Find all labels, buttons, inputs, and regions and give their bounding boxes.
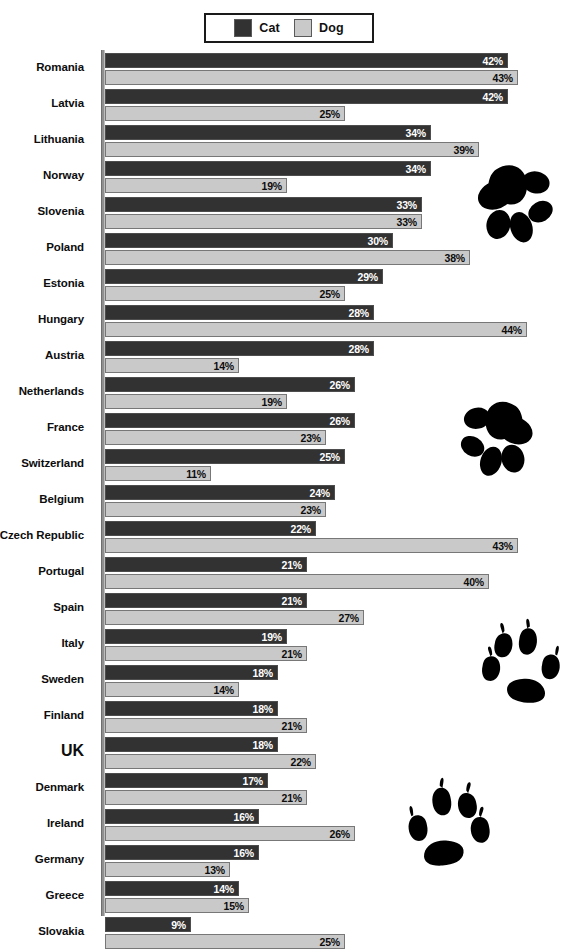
bar-cat: 16% (105, 809, 259, 824)
legend-label-cat: Cat (259, 21, 280, 35)
bar-value-label: 34% (406, 127, 430, 139)
bar-value-label: 43% (493, 72, 517, 84)
bar-dog: 39% (105, 142, 479, 157)
bar-value-label: 40% (464, 576, 488, 588)
category-label: Poland (0, 241, 84, 253)
bar-value-label: 26% (330, 415, 354, 427)
bar-dog: 23% (105, 502, 326, 517)
bar-cat: 18% (105, 665, 278, 680)
bar-dog: 43% (105, 538, 518, 553)
bar-value-label: 26% (330, 828, 354, 840)
bar-value-label: 19% (262, 631, 286, 643)
bar-value-label: 21% (282, 559, 306, 571)
bar-dog: 27% (105, 610, 364, 625)
bar-cat: 22% (105, 521, 316, 536)
bar-value-label: 42% (483, 91, 507, 103)
bar-dog: 25% (105, 934, 345, 949)
bar-dog: 21% (105, 718, 307, 733)
bar-row: Romania42%43% (0, 52, 578, 88)
bar-dog: 23% (105, 430, 326, 445)
category-label: Slovenia (0, 205, 84, 217)
cat-paw-print (466, 155, 562, 251)
bar-value-label: 23% (301, 504, 325, 516)
legend-swatch-cat (234, 19, 252, 37)
bar-cat: 34% (105, 125, 431, 140)
bar-row: Latvia42%25% (0, 88, 578, 124)
bar-cat: 34% (105, 161, 431, 176)
category-label: Lithuania (0, 133, 84, 145)
category-label: Estonia (0, 277, 84, 289)
bar-value-label: 11% (186, 468, 210, 480)
category-label: Switzerland (0, 457, 84, 469)
bar-value-label: 14% (214, 684, 238, 696)
bar-value-label: 18% (253, 739, 277, 751)
chart-legend: CatDog (204, 13, 374, 43)
bar-cat: 30% (105, 233, 393, 248)
category-label: Slovakia (0, 925, 84, 937)
bar-value-label: 21% (282, 720, 306, 732)
bar-value-label: 33% (397, 199, 421, 211)
bar-value-label: 38% (445, 252, 469, 264)
bar-cat: 18% (105, 701, 278, 716)
bar-value-label: 42% (483, 55, 507, 67)
category-label: Belgium (0, 493, 84, 505)
bar-cat: 19% (105, 629, 287, 644)
bar-cat: 17% (105, 773, 268, 788)
bar-value-label: 22% (291, 523, 315, 535)
bar-dog: 22% (105, 754, 316, 769)
bar-value-label: 25% (320, 451, 344, 463)
bar-value-label: 28% (349, 343, 373, 355)
bar-dog: 15% (105, 898, 249, 913)
bar-dog: 11% (105, 466, 211, 481)
bar-value-label: 33% (397, 216, 421, 228)
category-label: Hungary (0, 313, 84, 325)
bar-value-label: 14% (214, 883, 238, 895)
bar-value-label: 29% (358, 271, 382, 283)
bar-value-label: 9% (171, 919, 190, 931)
bar-value-label: 19% (262, 396, 286, 408)
category-label: Sweden (0, 673, 84, 685)
bar-cat: 21% (105, 593, 307, 608)
bar-value-label: 13% (205, 864, 229, 876)
bar-value-label: 39% (454, 144, 478, 156)
bar-row: Belgium24%23% (0, 484, 578, 520)
bar-row: Greece14%15% (0, 880, 578, 916)
bar-value-label: 25% (320, 288, 344, 300)
bar-dog: 40% (105, 574, 489, 589)
bar-dog: 14% (105, 682, 239, 697)
bar-dog: 14% (105, 358, 239, 373)
bar-value-label: 17% (243, 775, 267, 787)
bar-value-label: 16% (234, 811, 258, 823)
bar-value-label: 23% (301, 432, 325, 444)
bar-dog: 26% (105, 826, 355, 841)
bar-cat: 25% (105, 449, 345, 464)
bar-cat: 21% (105, 557, 307, 572)
legend-entry-dog: Dog (294, 19, 344, 37)
legend-label-dog: Dog (319, 21, 344, 35)
category-label: Denmark (0, 781, 84, 793)
bar-dog: 19% (105, 394, 287, 409)
category-label: Spain (0, 601, 84, 613)
bar-cat: 26% (105, 413, 355, 428)
bar-row: UK18%22% (0, 736, 578, 772)
bar-value-label: 28% (349, 307, 373, 319)
category-label: Greece (0, 889, 84, 901)
bar-cat: 42% (105, 89, 508, 104)
bar-value-label: 25% (320, 936, 344, 948)
category-label: Finland (0, 709, 84, 721)
bar-value-label: 15% (224, 900, 248, 912)
bar-cat: 29% (105, 269, 383, 284)
bar-cat: 9% (105, 917, 191, 932)
category-label: Italy (0, 637, 84, 649)
bar-value-label: 16% (234, 847, 258, 859)
bar-value-label: 19% (262, 180, 286, 192)
bar-cat: 24% (105, 485, 335, 500)
bar-value-label: 43% (493, 540, 517, 552)
bar-value-label: 21% (282, 595, 306, 607)
bar-value-label: 34% (406, 163, 430, 175)
category-label: Romania (0, 61, 84, 73)
bar-value-label: 21% (282, 792, 306, 804)
bar-cat: 28% (105, 341, 374, 356)
bar-row: Hungary28%44% (0, 304, 578, 340)
category-label: France (0, 421, 84, 433)
